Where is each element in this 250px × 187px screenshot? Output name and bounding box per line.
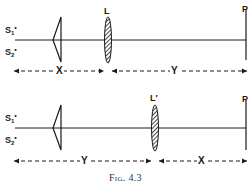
top-source-S1-label: S1•: [5, 26, 17, 35]
bottom-screen-label: P: [242, 95, 248, 104]
bottom-lens-L-prime: [152, 105, 159, 151]
bottom-source-S1-label: S1•: [5, 114, 17, 123]
bottom-setup: [14, 100, 247, 161]
top-lens-L: [105, 17, 112, 63]
top-source-S2-label: S2•: [5, 48, 17, 57]
bottom-lens-label: L′: [150, 94, 158, 103]
top-distance-X-label: X: [55, 66, 64, 76]
bottom-distance-X-label: X: [197, 156, 206, 166]
figure-4-3: S1• S2• L P X Y S1• S2• L′ P Y X Fig. 4.…: [0, 0, 250, 187]
figure-caption: Fig. 4.3: [109, 172, 142, 183]
bottom-distance-Y-label: Y: [80, 156, 89, 166]
top-setup: [14, 10, 247, 71]
top-screen-label: P: [242, 5, 248, 14]
diagram-drawing: [0, 0, 250, 187]
top-lens-label: L: [104, 7, 110, 16]
bottom-source-S2-label: S2•: [5, 136, 17, 145]
top-distance-Y-label: Y: [170, 66, 179, 76]
